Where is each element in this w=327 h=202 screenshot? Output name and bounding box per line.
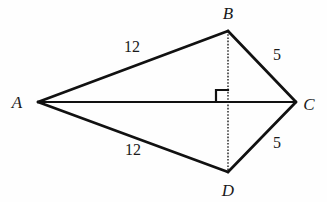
side-label-DC: 5 (273, 135, 281, 151)
vertex-label-B: B (223, 5, 233, 22)
kite-diagram-svg (0, 0, 327, 202)
right-angle-icon (216, 90, 228, 102)
side-label-AB: 12 (124, 39, 140, 55)
segment-BC (228, 31, 296, 102)
vertex-label-C: C (303, 96, 314, 113)
side-label-BC: 5 (273, 47, 281, 63)
side-label-AD: 12 (125, 142, 141, 158)
vertex-label-D: D (222, 182, 234, 199)
segment-AD (38, 102, 228, 172)
vertex-label-A: A (12, 94, 22, 111)
segment-DC (228, 102, 296, 172)
geometry-figure: A B C D 12 5 12 5 (0, 0, 327, 202)
